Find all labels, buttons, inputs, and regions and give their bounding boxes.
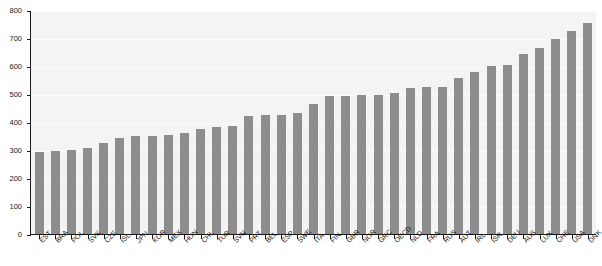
bar <box>567 31 576 235</box>
y-axis-tick-mark <box>27 67 31 68</box>
bar <box>228 126 237 235</box>
y-axis-tick-label: 0 <box>18 231 22 238</box>
bar <box>83 148 92 235</box>
bar <box>470 72 479 235</box>
x-axis-labels: ESTBRAPOLSVKCZEISLJPNKORMEXHUNCHLTURSVNP… <box>31 239 596 266</box>
y-axis-tick-label: 300 <box>9 147 22 154</box>
bar <box>67 150 76 235</box>
bar <box>390 93 399 235</box>
bar <box>180 133 189 235</box>
bar <box>487 66 496 235</box>
y-axis-tick-label: 400 <box>9 119 22 126</box>
bar <box>341 96 350 235</box>
bar <box>212 127 221 235</box>
bar <box>115 138 124 235</box>
bar <box>535 48 544 235</box>
bar <box>261 115 270 235</box>
bar <box>519 54 528 235</box>
y-axis-tick-mark <box>27 123 31 124</box>
bar <box>454 78 463 235</box>
bar <box>503 65 512 235</box>
bar <box>406 88 415 235</box>
bar <box>309 104 318 235</box>
y-axis-tick-label: 500 <box>9 91 22 98</box>
bar <box>131 136 140 235</box>
bar <box>293 113 302 235</box>
bar <box>357 95 366 235</box>
y-axis-tick-label: 100 <box>9 203 22 210</box>
y-axis-tick-mark <box>27 151 31 152</box>
y-axis-tick-label: 600 <box>9 63 22 70</box>
bar <box>99 143 108 235</box>
bar <box>374 95 383 235</box>
y-axis-tick-mark <box>27 11 31 12</box>
bar <box>35 152 44 235</box>
bar <box>438 87 447 235</box>
bar <box>148 136 157 235</box>
bar <box>422 87 431 235</box>
chart-title <box>0 0 598 9</box>
bar <box>583 23 592 235</box>
bar <box>196 129 205 235</box>
bar <box>51 151 60 235</box>
y-axis-tick-label: 200 <box>9 175 22 182</box>
bar <box>325 96 334 235</box>
bar <box>551 39 560 235</box>
y-axis-tick-label: 800 <box>9 7 22 14</box>
y-axis-tick-mark <box>27 179 31 180</box>
y-axis-tick-mark <box>27 95 31 96</box>
y-axis-tick-mark <box>27 39 31 40</box>
bar <box>164 135 173 235</box>
y-axis-labels: 8007006005004003002001000 <box>0 10 26 238</box>
y-axis-tick-mark <box>27 235 31 236</box>
bar <box>244 116 253 235</box>
bar <box>277 115 286 235</box>
bars-layer <box>31 11 596 235</box>
y-axis-tick-mark <box>27 207 31 208</box>
y-axis-tick-label: 700 <box>9 35 22 42</box>
